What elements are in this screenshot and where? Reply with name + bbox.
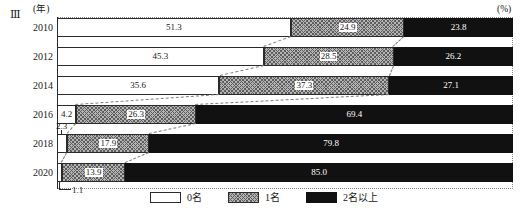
bar-segment-2016-2名以上: 69.4 bbox=[196, 105, 512, 124]
year-label: 2018 bbox=[33, 139, 53, 149]
stacked-bar-2012: 45.328.526.2 bbox=[57, 47, 513, 66]
bar-value-label: 26.2 bbox=[444, 52, 462, 61]
bar-segment-2014-1名: 37.3 bbox=[219, 76, 389, 95]
legend-swatch-icon bbox=[306, 192, 337, 203]
bar-segment-2020-1名: 13.9 bbox=[62, 163, 125, 182]
year-axis-tick-2016: 2016 bbox=[0, 101, 53, 129]
year-label: 2016 bbox=[33, 110, 53, 120]
chart-root: Ⅲ (年) (%) 201051.324.923.8201245.328.526… bbox=[0, 0, 523, 210]
bar-segment-2014-2名以上: 27.1 bbox=[389, 76, 513, 95]
year-label: 2012 bbox=[33, 52, 53, 62]
stacked-bar-2018: 2.317.979.8 bbox=[57, 134, 513, 153]
year-axis-tick-2012: 2012 bbox=[0, 43, 53, 71]
bar-value-label: 35.6 bbox=[129, 81, 147, 90]
bar-value-label: 24.9 bbox=[339, 23, 357, 32]
year-axis-tick-2014: 2014 bbox=[0, 72, 53, 100]
bar-segment-2018-0名: 2.3 bbox=[57, 134, 67, 153]
bar-value-label: 28.5 bbox=[320, 52, 338, 61]
stacked-bar-2016: 4.226.369.4 bbox=[57, 105, 513, 124]
bar-segment-2012-0名: 45.3 bbox=[57, 47, 264, 66]
bar-segment-2012-2名以上: 26.2 bbox=[394, 47, 513, 66]
callout-2020-label: 1.1 bbox=[72, 186, 83, 195]
bar-value-label: 79.8 bbox=[322, 139, 340, 148]
bar-value-label: 26.3 bbox=[127, 110, 145, 119]
legend-label: 1名 bbox=[265, 193, 280, 203]
leader-line-2020-horizontal bbox=[59, 189, 71, 190]
bar-segment-2010-1名: 24.9 bbox=[291, 18, 405, 37]
bar-value-label: 45.3 bbox=[151, 52, 169, 61]
stacked-bar-2010: 51.324.923.8 bbox=[57, 18, 513, 37]
bar-value-label: 4.2 bbox=[60, 110, 73, 119]
bar-segment-2018-2名以上: 79.8 bbox=[149, 134, 513, 153]
legend-label: 0名 bbox=[187, 193, 202, 203]
year-label: 2010 bbox=[33, 23, 53, 33]
bar-value-label: 13.9 bbox=[85, 168, 103, 177]
stacked-bar-2020: 1.113.985.0 bbox=[57, 163, 513, 182]
bar-value-label: 69.4 bbox=[345, 110, 363, 119]
legend-item-2名以上[interactable]: 2名以上 bbox=[306, 192, 378, 203]
legend-item-1名[interactable]: 1名 bbox=[228, 192, 280, 203]
year-axis-tick-2018: 2018 bbox=[0, 130, 53, 158]
bar-segment-2010-2名以上: 23.8 bbox=[404, 18, 513, 37]
bar-segment-2014-0名: 35.6 bbox=[57, 76, 219, 95]
bar-value-label: 85.0 bbox=[310, 168, 328, 177]
bar-value-label: 37.3 bbox=[295, 81, 313, 90]
year-axis-tick-2020: 2020 bbox=[0, 159, 53, 187]
bar-value-label: 51.3 bbox=[165, 23, 183, 32]
year-label: 2014 bbox=[33, 81, 53, 91]
leader-line-2018 bbox=[61, 130, 62, 135]
legend-swatch-icon bbox=[150, 192, 181, 203]
bar-segment-2010-0名: 51.3 bbox=[57, 18, 291, 37]
bar-value-label: 17.9 bbox=[99, 139, 117, 148]
bar-segment-2012-1名: 28.5 bbox=[264, 47, 394, 66]
bar-segment-2018-1名: 17.9 bbox=[67, 134, 149, 153]
bar-segment-2020-2名以上: 85.0 bbox=[125, 163, 513, 182]
bar-value-label: 23.8 bbox=[450, 23, 468, 32]
x-axis-unit-label: (%) bbox=[497, 5, 511, 15]
legend-item-0名[interactable]: 0名 bbox=[150, 192, 202, 203]
legend-swatch-icon bbox=[228, 192, 259, 203]
bar-segment-2016-1名: 26.3 bbox=[76, 105, 196, 124]
chart-legend: 0名1名2名以上 bbox=[150, 192, 378, 203]
year-label: 2020 bbox=[33, 168, 53, 178]
bar-value-label: 27.1 bbox=[442, 81, 460, 90]
stacked-bar-2014: 35.637.327.1 bbox=[57, 76, 513, 95]
year-axis-tick-2010: 2010 bbox=[0, 14, 53, 42]
legend-label: 2名以上 bbox=[343, 193, 378, 203]
